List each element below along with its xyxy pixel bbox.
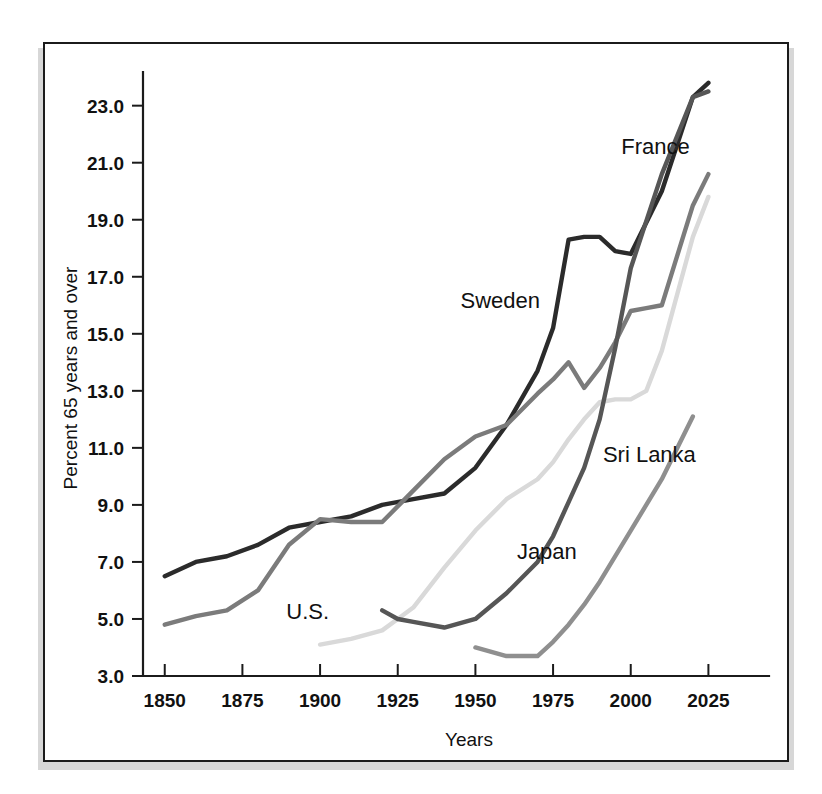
x-tick-label: 1875 <box>221 690 264 711</box>
y-tick-label: 3.0 <box>98 666 124 687</box>
series-label-france: France <box>621 134 689 159</box>
y-tick-label: 11.0 <box>88 438 124 459</box>
y-tick-label: 7.0 <box>98 552 124 573</box>
line-chart-plot: 3.05.07.09.011.013.015.017.019.021.023.0… <box>43 42 789 762</box>
y-axis-title: Percent 65 years and over <box>60 266 81 490</box>
x-tick-label: 1900 <box>299 690 341 711</box>
y-tick-label: 23.0 <box>87 96 124 117</box>
x-tick-label: 1975 <box>532 690 575 711</box>
x-tick-label: 1850 <box>144 690 186 711</box>
series-label-japan: Japan <box>517 539 577 564</box>
axis-lines <box>143 72 769 676</box>
series-line-u-s <box>320 197 708 645</box>
x-tick-label: 1950 <box>454 690 496 711</box>
y-tick-label: 9.0 <box>98 495 124 516</box>
x-axis-title: Years <box>445 729 493 750</box>
x-tick-label: 2025 <box>687 690 730 711</box>
y-tick-label: 5.0 <box>98 609 124 630</box>
x-tick-label: 1925 <box>377 690 420 711</box>
x-tick-label: 2000 <box>610 690 652 711</box>
series-labels: SwedenFranceU.S.JapanSri Lanka <box>286 134 696 624</box>
series-lines <box>165 83 709 656</box>
figure-root: 3.05.07.09.011.013.015.017.019.021.023.0… <box>0 0 822 794</box>
series-label-u-s: U.S. <box>286 599 329 624</box>
y-tick-label: 13.0 <box>87 381 124 402</box>
y-tick-label: 15.0 <box>87 324 124 345</box>
axis-group <box>143 72 769 676</box>
series-label-sri-lanka: Sri Lanka <box>603 442 697 467</box>
series-label-sweden: Sweden <box>461 288 541 313</box>
y-tick-label: 21.0 <box>87 153 124 174</box>
y-tick-label: 17.0 <box>87 267 124 288</box>
y-tick-label: 19.0 <box>87 210 124 231</box>
y-axis-ticks: 3.05.07.09.011.013.015.017.019.021.023.0 <box>87 96 143 687</box>
x-axis-ticks: 18501875190019251950197520002025 <box>144 664 730 711</box>
